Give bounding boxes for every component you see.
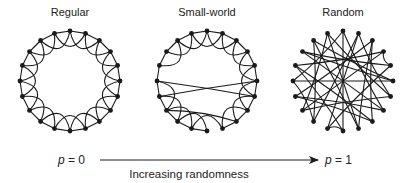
- node: [97, 119, 102, 124]
- node: [52, 126, 57, 131]
- edge: [242, 66, 255, 97]
- node: [164, 49, 169, 54]
- edge: [105, 66, 118, 97]
- edge: [293, 81, 314, 122]
- node: [356, 126, 361, 131]
- node: [38, 119, 43, 124]
- node: [293, 63, 298, 68]
- node: [175, 38, 180, 43]
- node: [341, 29, 346, 34]
- node: [68, 129, 73, 134]
- node: [341, 129, 346, 134]
- node: [245, 49, 250, 54]
- node: [97, 38, 102, 43]
- edge: [293, 31, 343, 81]
- panel-title-regular: Regular: [51, 6, 90, 18]
- node: [164, 108, 169, 113]
- node: [118, 79, 123, 84]
- node: [300, 49, 305, 54]
- node: [175, 119, 180, 124]
- node: [300, 108, 305, 113]
- node: [189, 126, 194, 131]
- node: [115, 63, 120, 68]
- node: [255, 79, 260, 84]
- node: [291, 79, 296, 84]
- node: [391, 79, 396, 84]
- node: [311, 38, 316, 43]
- small-world-network: [155, 29, 260, 134]
- node: [157, 94, 162, 99]
- node: [157, 63, 162, 68]
- node: [27, 108, 32, 113]
- node: [234, 119, 239, 124]
- node: [155, 79, 160, 84]
- node: [108, 108, 113, 113]
- node: [381, 49, 386, 54]
- regular-ring-lattice: [18, 29, 123, 134]
- node: [311, 119, 316, 124]
- random-network: [291, 29, 396, 134]
- node: [115, 94, 120, 99]
- node: [325, 31, 330, 36]
- node: [325, 126, 330, 131]
- node: [205, 29, 210, 34]
- node: [252, 63, 257, 68]
- node: [18, 79, 23, 84]
- watts-strogatz-diagram: Regular Small-world Random p = 0 p = 1 I…: [0, 0, 411, 183]
- node: [388, 94, 393, 99]
- node: [370, 38, 375, 43]
- node: [27, 49, 32, 54]
- edge: [192, 33, 223, 46]
- node: [252, 94, 257, 99]
- node: [189, 31, 194, 36]
- panel-title-small-world: Small-world: [178, 6, 235, 18]
- node: [38, 38, 43, 43]
- node: [52, 31, 57, 36]
- node: [220, 126, 225, 131]
- node: [356, 31, 361, 36]
- node: [388, 63, 393, 68]
- edge: [192, 116, 223, 129]
- node: [20, 63, 25, 68]
- node: [245, 108, 250, 113]
- node: [83, 126, 88, 131]
- node: [370, 119, 375, 124]
- edge: [22, 66, 35, 97]
- edge: [55, 33, 86, 46]
- node: [83, 31, 88, 36]
- panel-title-random: Random: [322, 6, 364, 18]
- node: [381, 108, 386, 113]
- node: [234, 38, 239, 43]
- node: [108, 49, 113, 54]
- node: [293, 94, 298, 99]
- increasing-randomness-caption: Increasing randomness: [129, 168, 249, 180]
- randomness-axis: p = 0 p = 1 Increasing randomness: [57, 153, 352, 180]
- node: [205, 129, 210, 134]
- node: [20, 94, 25, 99]
- p-one-label: p = 1: [324, 153, 352, 167]
- p-zero-label: p = 0: [57, 153, 85, 167]
- node: [220, 31, 225, 36]
- edge: [55, 116, 86, 129]
- node: [68, 29, 73, 34]
